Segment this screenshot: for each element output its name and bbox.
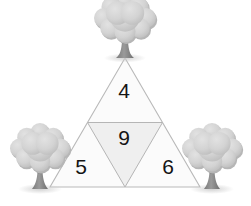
region-value-top: 4 [109,80,139,101]
right-tree-canopy [182,123,243,173]
top-tree [94,0,157,63]
top-tree-canopy [94,0,157,44]
right-tree-trunk [204,171,220,189]
region-value-bottom-left: 5 [66,156,96,177]
left-tree-trunk [32,171,48,189]
region-value-bottom-right: 6 [153,156,183,177]
region-value-middle: 9 [109,127,139,148]
triangle-trees-diagram [0,0,251,206]
left-tree-canopy [10,123,71,173]
